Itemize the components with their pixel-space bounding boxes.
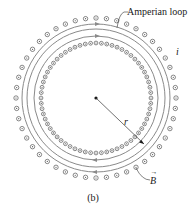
inner-winding-wire-dot (79, 45, 80, 46)
outer-winding-wire-dot (135, 167, 136, 168)
inner-winding-wire-dot (41, 103, 42, 104)
outer-winding-wire-dot (95, 17, 96, 18)
radius-arrowhead (139, 140, 144, 144)
outer-winding-wire-dot (169, 67, 170, 68)
outer-winding-wire-dot (116, 20, 117, 21)
field-vector-arrow: → (151, 168, 158, 176)
inner-winding-wire-dot (106, 43, 107, 44)
outer-winding-wire-dot (21, 128, 22, 129)
inner-winding-wire-dot (144, 123, 145, 124)
outer-winding-wire-dot (169, 128, 170, 129)
inner-winding-wire-dot (85, 43, 86, 44)
inner-winding-wire-dot (111, 45, 112, 46)
inner-winding-wire-dot (111, 150, 112, 151)
inner-winding-wire-dot (95, 152, 96, 153)
figure-caption: (b) (87, 192, 99, 204)
inner-winding-wire-dot (146, 118, 147, 119)
inner-winding-wire-dot (148, 113, 149, 114)
outer-winding-wire-dot (39, 41, 40, 42)
inner-winding-wire-dot (57, 136, 58, 137)
inner-winding-wire-dot (50, 67, 51, 68)
inner-winding-wire-dot (47, 71, 48, 72)
inner-winding-wire-dot (61, 140, 62, 141)
inner-winding-wire-dot (85, 151, 86, 152)
outer-winding-wire-dot (144, 34, 145, 35)
inner-winding-wire-dot (45, 118, 46, 119)
outer-winding-wire-dot (126, 23, 127, 24)
field-leader (136, 168, 150, 180)
inner-winding-wire-dot (106, 151, 107, 152)
inner-winding-wire-dot (101, 152, 102, 153)
arrow-left-icon (92, 170, 97, 174)
inner-winding-wire-dot (43, 81, 44, 82)
inner-winding-wire-dot (149, 87, 150, 88)
outer-winding-wire-dot (65, 171, 66, 172)
inner-winding-wire-dot (138, 132, 139, 133)
outer-winding-wire-dot (175, 108, 176, 109)
outer-winding-wire-dot (165, 137, 166, 138)
inner-winding-wire-dot (90, 43, 91, 44)
inner-winding-wire-dot (116, 148, 117, 149)
inner-winding-wire-dot (138, 63, 139, 64)
inner-winding-wire-dot (150, 103, 151, 104)
outer-winding-wire-dot (173, 77, 174, 78)
inner-winding-wire-dot (41, 87, 42, 88)
inner-winding-wire-dot (90, 152, 91, 153)
inner-winding-wire-dot (101, 43, 102, 44)
outer-winding-wire-dot (47, 161, 48, 162)
outer-winding-wire-dot (65, 23, 66, 24)
inner-winding-wire-dot (146, 76, 147, 77)
inner-winding-wire-dot (130, 140, 131, 141)
current-label: i (176, 46, 179, 57)
inner-winding-wire-dot (134, 136, 135, 137)
arrow-left-icon (92, 158, 97, 162)
outer-winding-wire-dot (75, 175, 76, 176)
inner-winding-wire-dot (40, 97, 41, 98)
toroid-diagram: r Amperian loop i B → (b) (0, 0, 191, 208)
inner-winding-wire-dot (126, 143, 127, 144)
inner-winding-wire-dot (116, 47, 117, 48)
outer-winding-wire-dot (126, 171, 127, 172)
inner-winding-wire-dot (95, 42, 96, 43)
outer-winding-wire-dot (152, 41, 153, 42)
inner-winding-wire-dot (121, 49, 122, 50)
inner-winding-wire-dot (74, 47, 75, 48)
outer-winding-wire-dot (85, 177, 86, 178)
inner-winding-wire-dot (50, 128, 51, 129)
inner-winding-wire-dot (141, 67, 142, 68)
inner-winding-wire-dot (53, 63, 54, 64)
inner-winding-wire-dot (79, 150, 80, 151)
outer-winding-wire-dot (106, 18, 107, 19)
inner-winding-wire-dot (69, 146, 70, 147)
outer-winding-wire-dot (26, 137, 27, 138)
inner-winding-wire-dot (57, 59, 58, 60)
arrow-right-icon (95, 34, 100, 38)
outer-winding-wire-dot (26, 57, 27, 58)
outer-winding-wire-dot (39, 154, 40, 155)
outer-winding-wire-dot (21, 67, 22, 68)
inner-winding-wire-dot (45, 76, 46, 77)
field-label: B (150, 175, 156, 186)
outer-winding-wire-dot (135, 28, 136, 29)
outer-winding-wire-dot (85, 18, 86, 19)
outer-winding-wire-dot (55, 28, 56, 29)
inner-winding-wire-dot (126, 52, 127, 53)
outer-winding-wire-dot (175, 87, 176, 88)
outer-winding-wire-dot (144, 161, 145, 162)
inner-winding-wire-dot (65, 143, 66, 144)
inner-winding-wire-dot (150, 97, 151, 98)
inner-winding-wire-dot (41, 108, 42, 109)
inner-winding-wire-dot (130, 55, 131, 56)
outer-winding-wire-dot (95, 177, 96, 178)
outer-winding-wire-dot (32, 146, 33, 147)
radius-label: r (124, 116, 128, 127)
outer-winding-wire-dot (165, 57, 166, 58)
radius-line (96, 98, 144, 144)
outer-winding-wire-dot (18, 118, 19, 119)
outer-winding-wire-dot (75, 20, 76, 21)
inner-winding-wire-dot (47, 123, 48, 124)
outer-winding-wire-dot (55, 167, 56, 168)
outer-winding-wire-dot (116, 175, 117, 176)
inner-winding-wire-dot (65, 52, 66, 53)
inner-winding-wire-dot (69, 49, 70, 50)
